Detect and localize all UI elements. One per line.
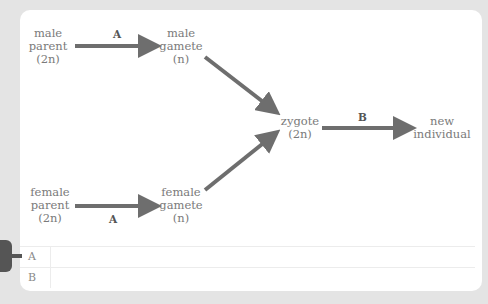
arrow-label-female-a: A xyxy=(109,213,117,225)
node-text: (2n) xyxy=(26,212,74,225)
answer-row-a: A xyxy=(20,247,475,267)
arrow-male-gamete-to-zygote xyxy=(205,57,271,108)
arrow-label-b: B xyxy=(358,111,367,123)
node-female-parent: female parent (2n) xyxy=(26,186,74,225)
answer-field-b[interactable] xyxy=(50,268,476,288)
node-female-gamete: female gamete (n) xyxy=(158,186,204,225)
node-text: (2n) xyxy=(278,128,322,141)
node-male-gamete: male gamete (n) xyxy=(158,27,204,66)
node-male-parent: male parent (2n) xyxy=(26,27,70,66)
node-text: individual xyxy=(410,128,474,141)
answer-row-b: B xyxy=(20,268,475,288)
answer-key: A xyxy=(28,250,36,263)
arrow-label-male-a: A xyxy=(113,28,121,40)
answer-key: B xyxy=(28,271,36,284)
node-text: (n) xyxy=(158,53,204,66)
node-text: (n) xyxy=(158,212,204,225)
node-zygote: zygote (2n) xyxy=(278,115,322,141)
node-text: (2n) xyxy=(26,53,70,66)
arrow-female-gamete-to-zygote xyxy=(205,137,271,190)
node-new-individual: new individual xyxy=(410,115,474,141)
answer-field-a[interactable] xyxy=(50,247,476,267)
